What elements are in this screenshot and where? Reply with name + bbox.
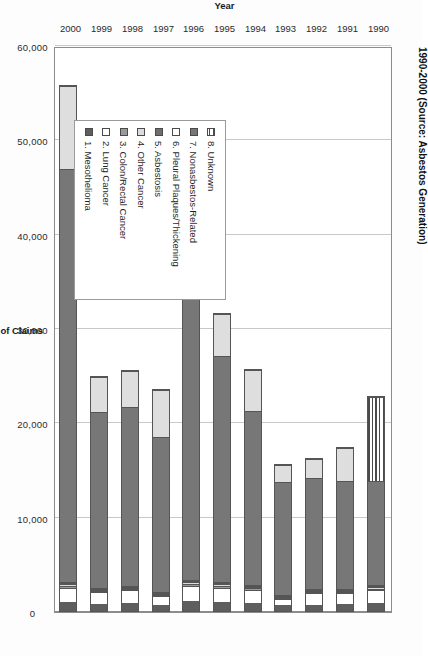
x-axis-tick: 1991 <box>330 23 364 34</box>
legend-label: 5. Asbestosis <box>154 141 164 197</box>
x-axis-tick: 1998 <box>115 23 149 34</box>
bar-segment <box>122 371 138 406</box>
bar-segment <box>183 586 199 601</box>
legend-item[interactable]: 2. Lung Cancer <box>99 128 114 292</box>
bar-segment <box>306 605 322 612</box>
bar-segment <box>368 590 384 602</box>
y-axis-tick: 10,000 <box>13 513 53 524</box>
bar-segment <box>214 588 230 602</box>
bar-segment <box>214 356 230 583</box>
bar-segment <box>275 605 291 611</box>
bar-segment <box>337 604 353 611</box>
bar-row <box>305 48 323 612</box>
stacked-bar[interactable] <box>90 376 108 612</box>
legend-label: 3. Colon/Rectal Cancer <box>119 141 129 239</box>
bar-segment <box>91 592 107 603</box>
stacked-bar[interactable] <box>305 458 323 612</box>
stacked-bar[interactable] <box>367 396 385 612</box>
bar-segment <box>214 602 230 611</box>
legend-label: 7. Nonasbestos-Related <box>189 141 199 243</box>
legend-item[interactable]: 3. Colon/Rectal Cancer <box>116 128 131 292</box>
bar-segment <box>91 412 107 587</box>
x-axis-tick: 1993 <box>269 23 303 34</box>
bar-row <box>244 48 262 612</box>
legend-label: 6. Pleural Plaques/Thickening <box>172 141 182 267</box>
bar-segment <box>245 411 261 585</box>
x-axis-tick: 1994 <box>238 23 272 34</box>
legend-item[interactable]: 5. Asbestosis <box>151 128 166 292</box>
legend-swatch-icon <box>207 128 215 136</box>
y-axis-tick: 0 <box>13 608 53 619</box>
bar-segment <box>337 593 353 603</box>
bar-segment <box>368 603 384 611</box>
stacked-bar[interactable] <box>336 447 354 612</box>
bar-row <box>336 48 354 612</box>
legend-label: 8. Unknown <box>207 141 217 191</box>
legend-swatch-icon <box>155 128 163 136</box>
bar-segment <box>306 593 322 604</box>
bar-segment <box>337 448 353 481</box>
bar-segment <box>245 603 261 611</box>
bar-row <box>274 48 292 612</box>
legend-swatch-icon <box>172 128 180 136</box>
y-axis-tick: 40,000 <box>13 230 53 241</box>
y-axis-tick: 20,000 <box>13 419 53 430</box>
bar-segment <box>183 601 199 611</box>
bar-segment <box>60 602 76 611</box>
y-axis-tick: 50,000 <box>13 136 53 147</box>
legend: 8. Unknown7. Nonasbestos-Related6. Pleur… <box>74 120 226 300</box>
bar-segment <box>275 465 291 482</box>
bar-segment <box>275 482 291 596</box>
bar-segment <box>368 397 384 481</box>
x-axis-tick: 1990 <box>361 23 395 34</box>
bar-row <box>367 48 385 612</box>
bar-segment <box>122 590 138 602</box>
bar-segment <box>306 459 322 478</box>
legend-swatch-icon <box>102 128 110 136</box>
bar-segment <box>337 481 353 589</box>
bar-segment <box>153 390 169 436</box>
legend-label: 1. Mesothelioma <box>84 141 94 211</box>
legend-swatch-icon <box>120 128 128 136</box>
bar-segment <box>122 407 138 586</box>
bar-segment <box>91 604 107 611</box>
legend-item[interactable]: 1. Mesothelioma <box>81 128 96 292</box>
x-axis-tick: 1999 <box>85 23 119 34</box>
x-axis-tick: 1997 <box>146 23 180 34</box>
x-axis-tick: 1996 <box>177 23 211 34</box>
stacked-bar[interactable] <box>244 369 262 612</box>
x-axis-tick: 1992 <box>300 23 334 34</box>
x-axis-tick: 1995 <box>208 23 242 34</box>
bar-segment <box>153 605 169 612</box>
bar-segment <box>91 377 107 412</box>
bar-segment <box>245 590 261 603</box>
bar-segment <box>153 596 169 604</box>
stacked-bar[interactable] <box>152 389 170 612</box>
x-axis-tick: 2000 <box>54 23 88 34</box>
legend-swatch-icon <box>190 128 198 136</box>
y-axis-label: Number of Claims <box>0 325 53 336</box>
legend-label: 2. Lung Cancer <box>102 141 112 206</box>
legend-swatch-icon <box>137 128 145 136</box>
y-axis-tick: 60,000 <box>13 42 53 53</box>
chart-title: 1990-2000 (Source: Asbestos Generation) <box>417 47 428 244</box>
stacked-bar[interactable] <box>213 313 231 613</box>
legend-item[interactable]: 8. Unknown <box>204 128 219 292</box>
bar-segment <box>245 370 261 411</box>
legend-item[interactable]: 7. Nonasbestos-Related <box>186 128 201 292</box>
stacked-bar[interactable] <box>121 370 139 612</box>
legend-item[interactable]: 4. Other Cancer <box>134 128 149 292</box>
gridline <box>55 45 391 46</box>
bar-segment <box>122 603 138 611</box>
x-axis-label: Year <box>205 0 245 11</box>
bar-segment <box>306 478 322 588</box>
bar-segment <box>214 314 230 356</box>
legend-swatch-icon <box>85 128 93 136</box>
bar-segment <box>368 481 384 586</box>
stacked-bar[interactable] <box>274 464 292 612</box>
legend-item[interactable]: 6. Pleural Plaques/Thickening <box>169 128 184 292</box>
bar-segment <box>153 437 169 592</box>
legend-label: 4. Other Cancer <box>137 141 147 209</box>
